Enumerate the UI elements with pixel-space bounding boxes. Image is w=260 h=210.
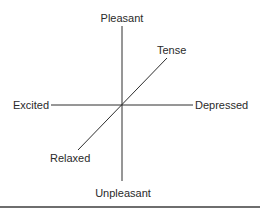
label-pleasant: Pleasant bbox=[101, 12, 144, 24]
mood-axes-diagram: Pleasant Unpleasant Excited Depressed Te… bbox=[0, 0, 260, 210]
label-relaxed: Relaxed bbox=[50, 152, 90, 164]
label-excited: Excited bbox=[13, 99, 49, 111]
label-depressed: Depressed bbox=[195, 99, 248, 111]
label-unpleasant: Unpleasant bbox=[95, 187, 151, 199]
label-tense: Tense bbox=[157, 44, 186, 56]
